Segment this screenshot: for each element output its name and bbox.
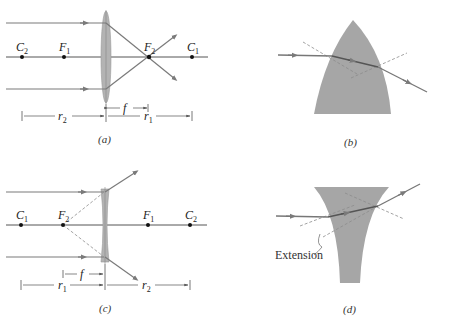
caption-a: (a) [98, 133, 111, 146]
dim-r2: r2 [142, 278, 151, 294]
label-f1: F1 [142, 208, 154, 224]
point-c2 [188, 223, 192, 227]
dim-r1: r1 [58, 278, 67, 294]
dim-f: f [123, 101, 128, 115]
label-f2: F2 [57, 208, 69, 224]
caption-c: (c) [99, 302, 112, 315]
label-c2: C2 [185, 208, 197, 224]
dim-f: f [80, 267, 85, 281]
extension-label: Extension [275, 248, 323, 262]
label-c1: C1 [16, 208, 28, 224]
point-c1 [190, 55, 194, 59]
convex-material-shape [314, 20, 391, 114]
point-c1 [19, 223, 23, 227]
panel-a-converging-lens: C2 F1 F2 C1 f r2 r1 (a) [6, 10, 208, 146]
label-c2: C2 [16, 40, 28, 56]
label-c1: C1 [187, 40, 199, 56]
dim-r1: r1 [144, 109, 153, 125]
panel-c-diverging-lens: C1 F2 F1 C2 f r1 r2 (c) [6, 172, 207, 315]
label-f2: F2 [143, 40, 155, 56]
dim-r2: r2 [58, 109, 67, 125]
caption-b: (b) [344, 136, 357, 149]
panel-d-concave-surface: Extension (d) [275, 184, 420, 316]
concave-material-shape [314, 187, 389, 283]
label-f1: F1 [58, 40, 70, 56]
caption-d: (d) [343, 303, 356, 316]
panel-b-convex-surface: (b) [278, 20, 427, 149]
lens-diagram: C2 F1 F2 C1 f r2 r1 (a) (b) [0, 0, 449, 320]
